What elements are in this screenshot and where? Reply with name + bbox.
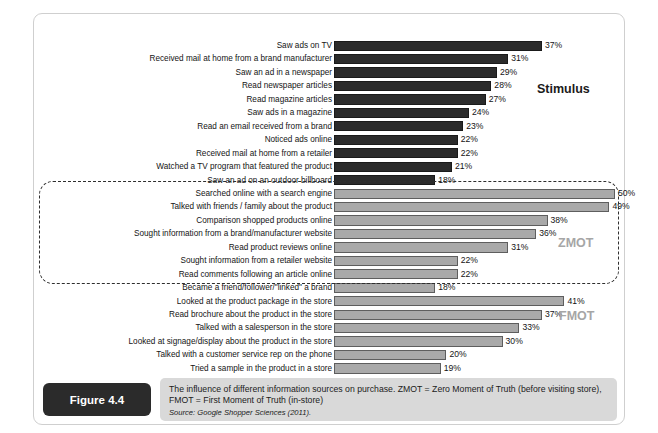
- bar-row: Sought information from a retailer websi…: [34, 254, 626, 267]
- caption-box: The influence of different information s…: [160, 378, 617, 421]
- bar-stimulus: [334, 41, 542, 51]
- bar-value-label: 33%: [522, 321, 539, 334]
- bar-category-label: Noticed ads online: [265, 133, 332, 146]
- bar-row: Noticed ads online22%: [34, 133, 626, 146]
- bar-fmot: [334, 310, 542, 320]
- bar-row: Looked at the product package in the sto…: [34, 295, 626, 308]
- bar-category-label: Read magazine articles: [246, 93, 332, 106]
- caption-area: Figure 4.4 The influence of different in…: [34, 369, 626, 426]
- bar-fill: [334, 81, 491, 91]
- bar-fill: [334, 336, 503, 346]
- bar-zmot: [334, 202, 609, 212]
- bar-value-label: 30%: [506, 335, 523, 348]
- bar-zmot: [334, 215, 548, 225]
- bar-row: Comparison shopped products online38%: [34, 214, 626, 227]
- bar-chart: Saw ads on TV37%Received mail at home fr…: [34, 14, 626, 369]
- bar-fmot: [334, 350, 446, 360]
- bar-value-label: 36%: [539, 227, 556, 240]
- bar-category-label: Saw an ad on an outdoor billboard: [207, 174, 332, 187]
- bar-value-label: 21%: [455, 160, 472, 173]
- bar-fill: [334, 350, 446, 360]
- bar-category-label: Became a friend/follower/"linked" a bran…: [182, 281, 332, 294]
- bar-category-label: Watched a TV program that featured the p…: [156, 160, 332, 173]
- bar-value-label: 37%: [545, 39, 562, 52]
- bar-row: Watched a TV program that featured the p…: [34, 160, 626, 173]
- bar-value-label: 28%: [494, 79, 511, 92]
- bar-category-label: Talked with a customer service rep on th…: [156, 348, 332, 361]
- bar-fill: [334, 121, 463, 131]
- bar-category-label: Talked with friends / family about the p…: [170, 200, 332, 213]
- bar-zmot: [334, 189, 615, 199]
- bar-value-label: 29%: [500, 66, 517, 79]
- figure-container: Saw ads on TV37%Received mail at home fr…: [33, 13, 625, 425]
- caption-text: The influence of different information s…: [169, 384, 608, 407]
- bar-fill: [334, 108, 469, 118]
- bar-category-label: Talked with a salesperson in the store: [195, 321, 332, 334]
- bar-value-label: 38%: [551, 214, 568, 227]
- bar-category-label: Looked at the product package in the sto…: [177, 295, 332, 308]
- bar-value-label: 22%: [461, 254, 478, 267]
- bar-row: Read product reviews online31%: [34, 241, 626, 254]
- bar-fill: [334, 67, 497, 77]
- bar-fill: [334, 148, 458, 158]
- bar-stimulus: [334, 67, 497, 77]
- bar-category-label: Comparison shopped products online: [196, 214, 332, 227]
- bar-fill: [334, 323, 519, 333]
- bar-stimulus: [334, 54, 508, 64]
- bar-row: Looked at signage/display about the prod…: [34, 335, 626, 348]
- bar-value-label: 27%: [489, 93, 506, 106]
- bar-fill: [334, 175, 435, 185]
- bar-stimulus: [334, 135, 458, 145]
- bar-row: Searched online with a search engine50%: [34, 187, 626, 200]
- bar-category-label: Read comments following an article onlin…: [179, 268, 332, 281]
- bar-value-label: 22%: [461, 147, 478, 160]
- bar-row: Saw ads in a magazine24%: [34, 106, 626, 119]
- bar-fmot: [334, 323, 519, 333]
- bar-category-label: Looked at signage/display about the prod…: [129, 335, 332, 348]
- bar-row: Talked with friends / family about the p…: [34, 200, 626, 213]
- bar-stimulus: [334, 81, 491, 91]
- bar-row: Became a friend/follower/"linked" a bran…: [34, 281, 626, 294]
- bar-stimulus: [334, 94, 486, 104]
- bar-category-label: Searched online with a search engine: [195, 187, 332, 200]
- bar-stimulus: [334, 148, 458, 158]
- bar-row: Sought information from a brand/manufact…: [34, 227, 626, 240]
- bar-fill: [334, 296, 564, 306]
- bar-fill: [334, 242, 508, 252]
- bar-stimulus: [334, 175, 435, 185]
- bar-fill: [334, 310, 542, 320]
- group-label-zmot: ZMOT: [558, 236, 593, 250]
- bar-value-label: 41%: [567, 295, 584, 308]
- bar-category-label: Saw ads on TV: [277, 39, 332, 52]
- bar-row: Talked with a salesperson in the store33…: [34, 321, 626, 334]
- bar-category-label: Saw ads in a magazine: [247, 106, 332, 119]
- bar-stimulus: [334, 108, 469, 118]
- group-label-stimulus: Stimulus: [537, 82, 590, 96]
- caption-source: Source: Google Shopper Sciences (2011).: [169, 408, 608, 418]
- bar-fill: [334, 269, 458, 279]
- bar-row: Talked with a customer service rep on th…: [34, 348, 626, 361]
- bar-value-label: 31%: [511, 241, 528, 254]
- bar-fmot: [334, 296, 564, 306]
- bar-value-label: 31%: [511, 52, 528, 65]
- bar-fill: [334, 256, 458, 266]
- bar-row: Read comments following an article onlin…: [34, 268, 626, 281]
- bar-category-label: Saw an ad in a newspaper: [236, 66, 333, 79]
- bar-fill: [334, 189, 615, 199]
- bar-fmot: [334, 336, 503, 346]
- bar-row: Saw an ad in a newspaper29%: [34, 66, 626, 79]
- bar-category-label: Read product reviews online: [229, 241, 332, 254]
- bar-row: Saw an ad on an outdoor billboard18%: [34, 174, 626, 187]
- bar-row: Received mail at home from a retailer22%: [34, 147, 626, 160]
- bar-zmot: [334, 256, 458, 266]
- bar-category-label: Sought information from a retailer websi…: [180, 254, 332, 267]
- bar-category-label: Read newspaper articles: [242, 79, 332, 92]
- figure-number-badge: Figure 4.4: [43, 383, 151, 416]
- bar-fill: [334, 283, 435, 293]
- bar-value-label: 49%: [612, 200, 629, 213]
- bar-stimulus: [334, 162, 452, 172]
- bar-category-label: Received mail at home from a brand manuf…: [150, 52, 332, 65]
- bar-row: Read an email received from a brand23%: [34, 120, 626, 133]
- bar-zmot: [334, 269, 458, 279]
- bar-fill: [334, 229, 536, 239]
